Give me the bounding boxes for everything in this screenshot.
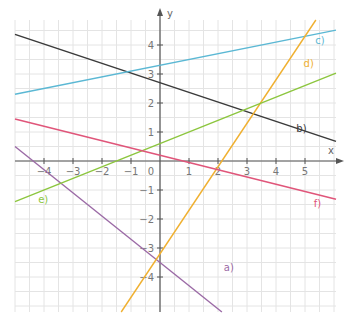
y-tick-label: 1 bbox=[148, 127, 154, 138]
x-tick-label: 1 bbox=[186, 166, 192, 177]
x-tick-label: −2 bbox=[95, 166, 110, 177]
series-label-a: a) bbox=[224, 262, 234, 273]
series-line-f bbox=[15, 119, 336, 199]
series-label-b: b) bbox=[296, 123, 306, 134]
series-line-b bbox=[15, 34, 336, 141]
origin-label: 0 bbox=[148, 166, 154, 177]
x-axis-label: x bbox=[328, 145, 334, 156]
x-tick-label: 3 bbox=[244, 166, 250, 177]
y-axis-arrow-icon bbox=[157, 8, 163, 16]
series-label-d: d) bbox=[304, 58, 314, 69]
series-label-e: e) bbox=[38, 194, 48, 205]
series-line-e bbox=[15, 73, 336, 201]
grid bbox=[15, 20, 336, 312]
x-axis-arrow-icon bbox=[336, 158, 344, 164]
x-tick-label: −4 bbox=[37, 166, 52, 177]
x-tick-label: 5 bbox=[302, 166, 308, 177]
y-tick-label: 4 bbox=[148, 40, 154, 51]
y-tick-label: −1 bbox=[139, 185, 154, 196]
line-chart: xy−4−3−2−1123454321−1−2−3−40 a)b)c)d)e)f… bbox=[0, 0, 346, 322]
y-tick-label: −2 bbox=[139, 214, 154, 225]
x-tick-label: −1 bbox=[124, 166, 139, 177]
series-label-f: f) bbox=[314, 198, 322, 209]
x-tick-label: −3 bbox=[66, 166, 81, 177]
x-tick-label: 4 bbox=[273, 166, 279, 177]
lines bbox=[15, 20, 336, 312]
series-label-c: c) bbox=[315, 35, 324, 46]
y-tick-label: 2 bbox=[148, 98, 154, 109]
y-axis-label: y bbox=[167, 8, 173, 19]
y-tick-label: 3 bbox=[148, 69, 154, 80]
